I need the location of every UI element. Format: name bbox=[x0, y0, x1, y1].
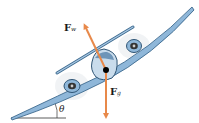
label-fw: Fw bbox=[64, 22, 76, 33]
label-theta: θ bbox=[59, 104, 64, 114]
right-engine bbox=[127, 40, 142, 53]
left-engine bbox=[64, 80, 80, 93]
label-fg: Fg bbox=[110, 86, 121, 97]
angle-arc bbox=[55, 103, 57, 118]
airplane-figure bbox=[0, 0, 199, 123]
banked-airplane-diagram: Fw Fg θ bbox=[0, 0, 199, 123]
center-of-mass-dot bbox=[103, 67, 109, 73]
